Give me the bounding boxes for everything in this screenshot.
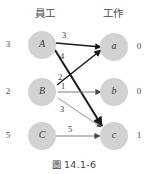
- right-node-group: a 0 b 0 c 1: [100, 33, 142, 150]
- node-c-value: 1: [137, 130, 142, 140]
- node-B-label: B: [39, 85, 45, 96]
- edge-weight-layer: 3 4 2 1 3 5: [58, 30, 72, 134]
- node-A-value: 3: [6, 39, 11, 49]
- edge-weight-B-b: 1: [61, 81, 65, 91]
- edge-weight-B-c: 3: [60, 104, 64, 114]
- left-node-group: A 3 B 2 C 5: [6, 31, 56, 150]
- node-C-label: C: [39, 129, 46, 140]
- node-c-label: c: [112, 129, 117, 140]
- node-B-value: 2: [6, 86, 11, 96]
- caption-number: 14.1-6: [64, 159, 96, 170]
- node-C-value: 5: [6, 130, 11, 140]
- node-a-label: a: [112, 40, 117, 51]
- node-a-value: 0: [137, 41, 142, 51]
- node-b-value: 0: [137, 86, 142, 96]
- caption-prefix: 圖: [52, 157, 62, 171]
- edge-weight-A-c: 4: [60, 51, 65, 61]
- column-header-left: 員工: [35, 7, 56, 19]
- figure-caption: 圖14.1-6: [0, 157, 148, 171]
- edge-A-a: [56, 43, 101, 47]
- edge-weight-A-a: 3: [62, 30, 66, 40]
- figure-container: 員工 工作 3 4 2 1 3 5: [0, 0, 148, 174]
- bipartite-assignment-diagram: 員工 工作 3 4 2 1 3 5: [0, 0, 148, 174]
- column-header-right: 工作: [103, 7, 125, 19]
- node-b-label: b: [112, 85, 117, 96]
- edge-weight-C-c: 5: [68, 124, 72, 134]
- node-A-label: A: [38, 38, 46, 49]
